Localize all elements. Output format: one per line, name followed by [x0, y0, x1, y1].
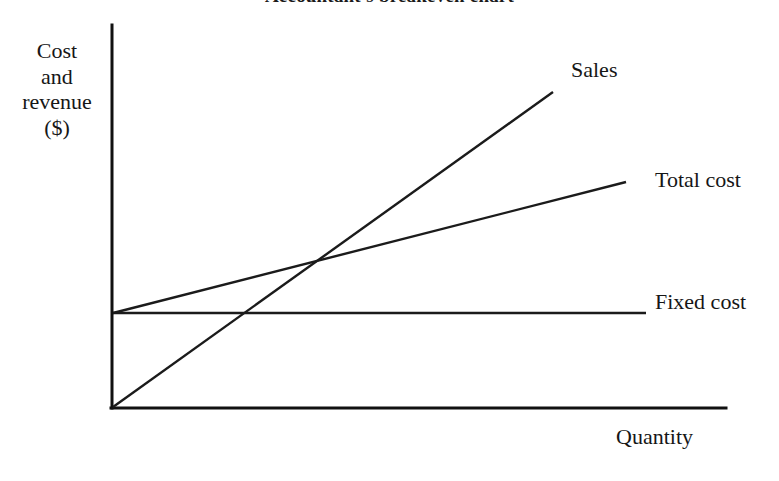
x-axis-title: Quantity — [616, 424, 693, 450]
series-line-total-cost — [113, 182, 626, 313]
series-label-total-cost: Total cost — [655, 167, 741, 193]
series-label-sales: Sales — [571, 57, 617, 83]
series-label-fixed-cost: Fixed cost — [655, 289, 746, 315]
plot-area — [0, 0, 779, 481]
breakeven-chart-figure: Accountant's breakeven chart Cost and re… — [0, 0, 779, 481]
series-line-sales — [113, 92, 553, 407]
